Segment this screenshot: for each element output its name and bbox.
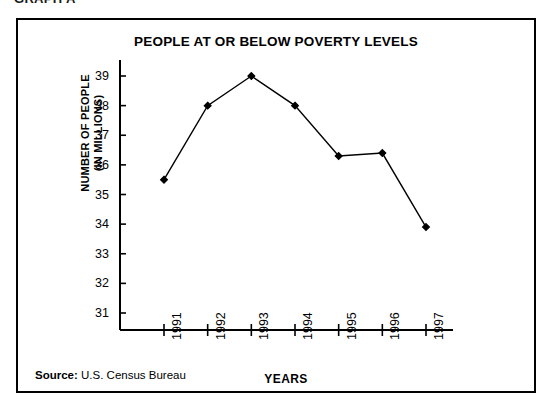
chart-frame: PEOPLE AT OR BELOW POVERTY LEVELS NUMBER…: [16, 18, 536, 393]
y-tick-label: 32: [85, 276, 109, 290]
y-tick-label: 38: [85, 99, 109, 113]
source-note: Source: U.S. Census Bureau: [35, 369, 186, 381]
y-tick-label: 39: [85, 69, 109, 83]
source-label: Source:: [35, 369, 78, 381]
source-text: U.S. Census Bureau: [81, 369, 186, 381]
y-tick-label: 33: [85, 247, 109, 261]
y-tick-label: 34: [85, 217, 109, 231]
y-tick-label: 37: [85, 128, 109, 142]
y-tick-label: 31: [85, 306, 109, 320]
y-tick-label: 36: [85, 158, 109, 172]
graph-caption: GRAPH A: [14, 0, 76, 6]
plot-area: [119, 60, 453, 338]
line-chart-svg: [119, 60, 453, 338]
y-tick-label: 35: [85, 188, 109, 202]
